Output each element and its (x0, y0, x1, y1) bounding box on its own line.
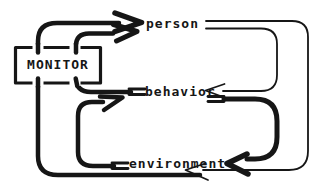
monitor-node-label: MONITOR (27, 58, 89, 72)
environment-node-label: environment (129, 157, 226, 171)
monitor-node: MONITOR (15, 47, 101, 83)
person-node-label: person (146, 17, 199, 31)
edge-environment-to-behavior-line (78, 102, 114, 166)
edge-person-to-behavior-line (206, 29, 277, 92)
behavior-node-label: behavior (145, 85, 216, 99)
monitor-feedback-diagram: MONITOR person behavior environment (0, 0, 320, 196)
arrowhead-into-environment-thick (227, 154, 248, 174)
edge-behavior-to-environment-line (224, 99, 277, 159)
